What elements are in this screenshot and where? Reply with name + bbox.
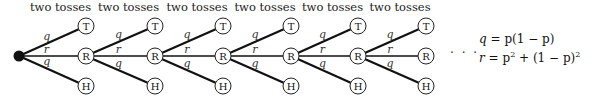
edge-label-middle: r [184, 43, 190, 56]
edge-label-top: q [115, 28, 122, 41]
node-label-top: T [83, 21, 90, 32]
edge-label-top: q [43, 30, 50, 43]
edge-label-bottom: q [183, 57, 190, 70]
stage-label: two tosses [98, 0, 159, 14]
stage-label: two tosses [30, 0, 91, 14]
node-label-bottom: H [422, 81, 431, 92]
node-label-top: T [220, 21, 227, 32]
q-symbol: q [479, 32, 487, 46]
node-label-middle: R [422, 51, 430, 62]
probability-tree-diagram: two tossesqTrRqHtwo tossesqTrRqHtwo toss… [0, 0, 598, 96]
equation-r: r = p2 + (1 − p)2 [479, 50, 580, 65]
node-label-top: T [423, 21, 430, 32]
edge-label-top: q [386, 28, 393, 41]
node-label-bottom: H [82, 81, 91, 92]
stage-label: two tosses [302, 0, 363, 14]
stage-label: two tosses [234, 0, 295, 14]
node-label-top: T [288, 21, 295, 32]
node-label-middle: R [219, 51, 227, 62]
stage-label: two tosses [369, 0, 430, 14]
node-label-middle: R [82, 51, 90, 62]
edge-label-middle: r [252, 43, 258, 56]
r-term-b: + (1 − p) [515, 51, 575, 65]
continuation-dots: · · · [450, 46, 479, 60]
edge-label-top: q [183, 28, 190, 41]
edge-label-middle: r [116, 43, 122, 56]
r-term-a: p [502, 51, 510, 65]
stage-label: two tosses [166, 0, 227, 14]
q-definition: p(1 − p) [504, 32, 554, 46]
equation-q: q = p(1 − p) [479, 32, 554, 46]
edge-label-bottom: q [386, 57, 393, 70]
tree-svg: two tossesqTrRqHtwo tossesqTrRqHtwo toss… [0, 0, 598, 96]
edge-label-middle: r [387, 43, 393, 56]
root-node [14, 51, 25, 62]
edge-label-bottom: q [251, 57, 258, 70]
node-label-bottom: H [219, 81, 228, 92]
node-label-bottom: H [151, 81, 160, 92]
edge-label-top: q [251, 28, 258, 41]
edge-label-bottom: q [319, 57, 326, 70]
node-label-middle: R [287, 51, 295, 62]
edge-label-bottom: q [43, 55, 50, 68]
node-label-middle: R [151, 51, 159, 62]
node-label-bottom: H [354, 81, 363, 92]
r-symbol: r [479, 51, 485, 65]
node-label-middle: R [354, 51, 362, 62]
edge-label-top: q [319, 28, 326, 41]
edge-label-middle: r [320, 43, 326, 56]
edge-label-middle: r [44, 43, 50, 56]
edge-label-bottom: q [115, 57, 122, 70]
node-label-bottom: H [287, 81, 296, 92]
node-label-top: T [152, 21, 159, 32]
node-label-top: T [355, 21, 362, 32]
